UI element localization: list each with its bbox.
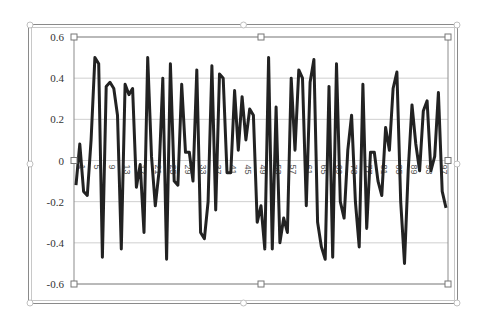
gridlines [74, 37, 448, 284]
y-tick-label: 0.2 [50, 113, 64, 125]
y-tick-label: -0.6 [47, 278, 65, 290]
chart-resize-handle[interactable] [27, 300, 33, 306]
plot-resize-handle[interactable] [258, 281, 264, 287]
plot-resize-handle[interactable] [258, 34, 264, 40]
x-axis-ticks: 1591317212529333741454953576165697377818… [77, 165, 449, 175]
y-tick-label: 0.4 [50, 72, 64, 84]
plot-resize-handle[interactable] [445, 34, 451, 40]
line-chart: 0.60.40.20-0.2-0.4-0.6 15913172125293337… [0, 0, 483, 330]
x-tick-label: 9 [107, 165, 117, 170]
y-tick-label: 0.6 [50, 31, 64, 43]
y-tick-label: 0 [59, 155, 65, 167]
y-axis-ticks: 0.60.40.20-0.2-0.4-0.6 [47, 31, 65, 290]
chart-resize-handle[interactable] [454, 161, 460, 167]
plot-resize-handle[interactable] [445, 158, 451, 164]
chart-resize-handle[interactable] [241, 300, 247, 306]
chart-resize-handle[interactable] [241, 22, 247, 28]
y-tick-label: -0.4 [47, 237, 65, 249]
plot-resize-handle[interactable] [71, 158, 77, 164]
y-tick-label: -0.2 [47, 196, 64, 208]
chart-resize-handle[interactable] [454, 300, 460, 306]
plot-resize-handle[interactable] [71, 281, 77, 287]
plot-resize-handle[interactable] [445, 281, 451, 287]
x-tick-label: 45 [243, 165, 253, 175]
chart-resize-handle[interactable] [27, 161, 33, 167]
chart-resize-handle[interactable] [454, 22, 460, 28]
plot-resize-handle[interactable] [71, 34, 77, 40]
chart-resize-handle[interactable] [27, 22, 33, 28]
